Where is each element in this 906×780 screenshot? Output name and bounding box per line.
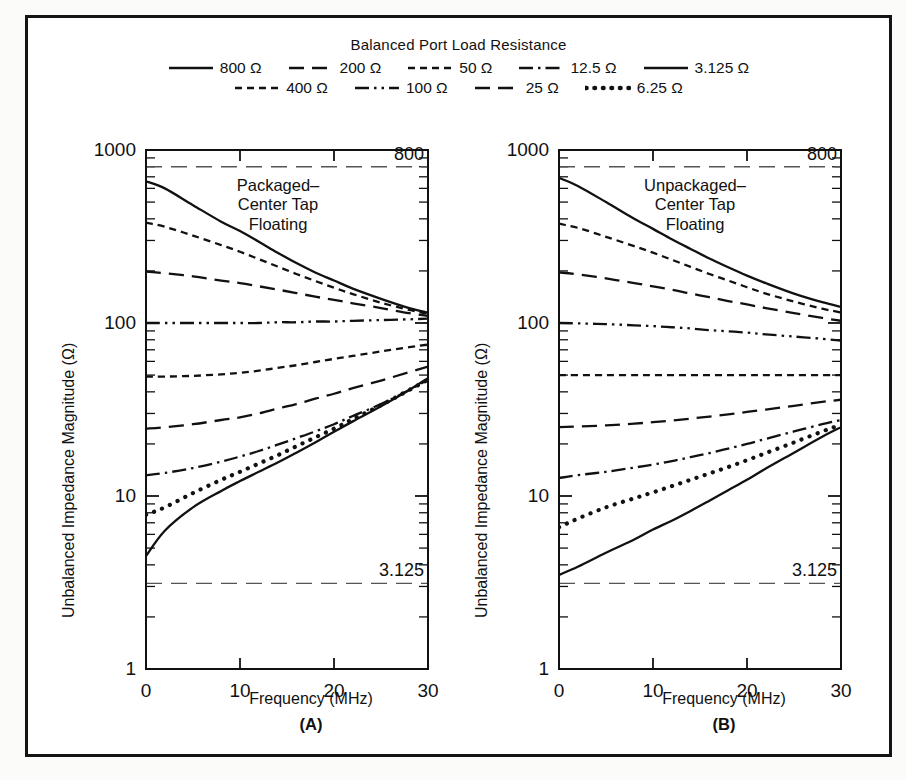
y-tick-label: 10 bbox=[528, 485, 549, 506]
legend-label: 400 Ω bbox=[286, 79, 328, 97]
legend-item: 6.25 Ω bbox=[585, 79, 683, 97]
legend-label: 200 Ω bbox=[340, 59, 382, 77]
legend-swatch-solid bbox=[643, 61, 689, 75]
y-tick-label: 100 bbox=[104, 312, 136, 333]
legend-title: Balanced Port Load Resistance bbox=[28, 36, 889, 53]
panel-b-annotation: Unpackaged– Center Tap Floating bbox=[616, 176, 774, 234]
legend-label: 50 Ω bbox=[459, 59, 492, 77]
x-tick-label: 0 bbox=[141, 680, 152, 701]
legend-swatch-solid bbox=[168, 61, 214, 75]
legend-label: 800 Ω bbox=[220, 59, 262, 77]
legend-swatch-dash-short bbox=[234, 81, 280, 95]
legend-row-bottom: 400 Ω100 Ω25 Ω6.25 Ω bbox=[28, 79, 889, 97]
legend-label: 12.5 Ω bbox=[570, 59, 616, 77]
panel-b-x-axis-label: Frequency (MHz) bbox=[574, 690, 874, 708]
panel-a-annotation: Packaged– Center Tap Floating bbox=[203, 176, 353, 234]
panel-a-x-axis-label: Frequency (MHz) bbox=[161, 690, 461, 708]
reference-label-3.125: 3.125 bbox=[379, 560, 424, 580]
panel-b-y-axis-label: Unbalanced Impedance Magnitude (Ω) bbox=[473, 343, 491, 618]
legend-label: 3.125 Ω bbox=[695, 59, 750, 77]
reference-label-800: 800 bbox=[807, 144, 837, 164]
x-tick-label: 0 bbox=[554, 680, 565, 701]
legend-label: 25 Ω bbox=[526, 79, 559, 97]
legend: Balanced Port Load Resistance 800 Ω200 Ω… bbox=[28, 36, 889, 97]
legend-label: 100 Ω bbox=[406, 79, 448, 97]
legend-row-top: 800 Ω200 Ω50 Ω12.5 Ω3.125 Ω bbox=[28, 59, 889, 77]
legend-item: 50 Ω bbox=[407, 59, 492, 77]
y-tick-label: 1 bbox=[125, 658, 136, 679]
legend-item: 800 Ω bbox=[168, 59, 262, 77]
legend-item: 12.5 Ω bbox=[518, 59, 616, 77]
y-tick-label: 10 bbox=[115, 485, 136, 506]
y-tick-label: 1000 bbox=[507, 139, 549, 160]
panel-b-letter: (B) bbox=[574, 715, 874, 734]
legend-swatch-dash-dot-dot bbox=[354, 81, 400, 95]
legend-item: 400 Ω bbox=[234, 79, 328, 97]
y-tick-label: 100 bbox=[517, 312, 549, 333]
legend-swatch-dash-long bbox=[474, 81, 520, 95]
legend-swatch-dash-short bbox=[407, 61, 453, 75]
legend-item: 200 Ω bbox=[288, 59, 382, 77]
reference-label-800: 800 bbox=[394, 144, 424, 164]
y-tick-label: 1 bbox=[538, 658, 549, 679]
legend-swatch-dash-long bbox=[288, 61, 334, 75]
panel-a-y-axis-label: Unbalanced Impedance Magnitude (Ω) bbox=[60, 343, 78, 618]
legend-swatch-dotted bbox=[585, 81, 631, 95]
panel-a-letter: (A) bbox=[161, 715, 461, 734]
legend-swatch-dash-dot bbox=[518, 61, 564, 75]
figure-frame: Balanced Port Load Resistance 800 Ω200 Ω… bbox=[25, 15, 892, 757]
legend-item: 3.125 Ω bbox=[643, 59, 750, 77]
legend-label: 6.25 Ω bbox=[637, 79, 683, 97]
y-tick-label: 1000 bbox=[94, 139, 136, 160]
legend-item: 100 Ω bbox=[354, 79, 448, 97]
legend-item: 25 Ω bbox=[474, 79, 559, 97]
reference-label-3.125: 3.125 bbox=[792, 560, 837, 580]
